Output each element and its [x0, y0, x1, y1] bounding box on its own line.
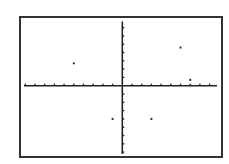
plot-frame	[20, 17, 222, 157]
scatter-plot	[0, 0, 229, 164]
data-point	[150, 118, 152, 120]
y-axis	[122, 22, 124, 155]
data-point	[189, 79, 191, 81]
data-point	[73, 62, 75, 64]
data-point	[180, 47, 182, 49]
data-points	[73, 47, 191, 120]
data-point	[112, 118, 114, 120]
x-axis	[24, 84, 217, 86]
